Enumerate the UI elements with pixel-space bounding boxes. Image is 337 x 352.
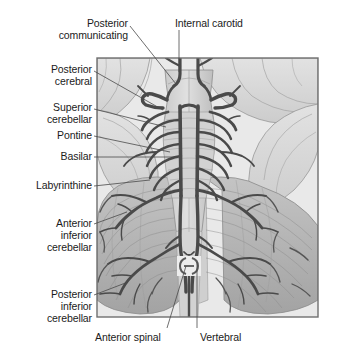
label-anterior-spinal: Anterior spinal (95, 331, 161, 343)
plate-contents (97, 58, 318, 317)
label-posterior-cerebral: Posteriorcerebral (51, 63, 92, 87)
label-pontine: Pontine (57, 129, 92, 141)
label-posterior-inferior-cerebellar: Posteriorinferiorcerebellar (47, 288, 92, 325)
figure-canvas: Posteriorcommunicating Internal carotid … (0, 0, 337, 352)
label-posterior-communicating: Posteriorcommunicating (59, 17, 128, 41)
label-anterior-inferior-cerebellar: Anteriorinferiorcerebellar (47, 217, 92, 254)
label-vertebral: Vertebral (200, 331, 241, 343)
label-labyrinthine: Labyrinthine (36, 179, 92, 191)
label-superior-cerebellar: Superiorcerebellar (47, 101, 92, 125)
label-internal-carotid: Internal carotid (175, 17, 243, 29)
label-basilar: Basilar (61, 150, 92, 162)
